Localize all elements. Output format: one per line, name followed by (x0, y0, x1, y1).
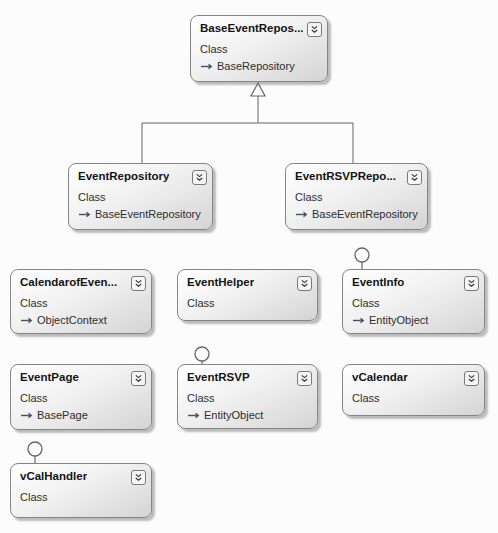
class-header: EventRepository (69, 164, 212, 188)
class-title: EventHelper (187, 276, 254, 288)
inherits-arrow-icon (295, 210, 308, 219)
base-type-row: EntityObject (343, 311, 484, 328)
base-type-name: ObjectContext (37, 313, 107, 328)
inherits-arrow-icon (187, 411, 200, 420)
inheritance-triangle-icon (251, 83, 265, 96)
base-type-name: BaseEventRepository (95, 207, 201, 222)
base-type-row: EntityObject (178, 406, 317, 423)
class-kind-label: Class (178, 389, 317, 406)
class-kind-label: Class (69, 188, 212, 205)
class-box-v-cal-handler[interactable]: vCalHandlerClass (10, 463, 152, 518)
class-kind-label: Class (11, 294, 151, 311)
chevron-double-down-icon[interactable] (192, 170, 207, 185)
base-type-name: BaseEventRepository (312, 207, 418, 222)
inherits-arrow-icon (20, 411, 33, 420)
class-kind-label: Class (11, 488, 151, 505)
chevron-double-down-icon[interactable] (407, 170, 422, 185)
class-box-v-calendar[interactable]: vCalendarClass (342, 364, 485, 416)
class-header: EventInfo (343, 270, 484, 294)
class-header: vCalHandler (11, 464, 151, 488)
chevron-double-down-icon[interactable] (464, 276, 479, 291)
base-type-name: BasePage (37, 408, 88, 423)
class-header: BaseEventRepos... (191, 16, 327, 40)
inherits-arrow-icon (20, 316, 33, 325)
class-title: vCalHandler (20, 470, 87, 482)
class-title: EventInfo (352, 276, 404, 288)
base-type-row: BaseEventRepository (69, 205, 212, 222)
class-box-event-helper[interactable]: EventHelperClass (177, 269, 318, 321)
chevron-double-down-icon[interactable] (131, 470, 146, 485)
base-type-row: BaseEventRepository (286, 205, 427, 222)
class-box-event-rsvp-repository[interactable]: EventRSVPRepo...ClassBaseEventRepository (285, 163, 428, 230)
class-header: CalendarofEven... (11, 270, 151, 294)
class-kind-label: Class (178, 294, 317, 311)
class-header: vCalendar (343, 365, 484, 389)
base-type-name: BaseRepository (217, 59, 295, 74)
inherits-arrow-icon (200, 62, 213, 71)
class-header: EventPage (11, 365, 151, 389)
class-kind-label: Class (286, 188, 427, 205)
class-title: EventRSVPRepo... (295, 170, 396, 182)
class-box-calendar-of-events[interactable]: CalendarofEven...ClassObjectContext (10, 269, 152, 334)
class-header: EventHelper (178, 270, 317, 294)
base-type-name: EntityObject (369, 313, 428, 328)
class-header: EventRSVP (178, 365, 317, 389)
base-type-row: ObjectContext (11, 311, 151, 328)
chevron-double-down-icon[interactable] (297, 276, 312, 291)
class-box-base-event-repository[interactable]: BaseEventRepos...ClassBaseRepository (190, 15, 328, 82)
inherits-arrow-icon (78, 210, 91, 219)
class-diagram-canvas: BaseEventRepos...ClassBaseRepositoryEven… (0, 0, 498, 533)
class-box-event-page[interactable]: EventPageClassBasePage (10, 364, 152, 430)
chevron-double-down-icon[interactable] (307, 22, 322, 37)
chevron-double-down-icon[interactable] (464, 371, 479, 386)
chevron-double-down-icon[interactable] (131, 371, 146, 386)
base-type-row: BaseRepository (191, 57, 327, 74)
class-title: CalendarofEven... (20, 276, 117, 288)
class-title: EventRepository (78, 170, 169, 182)
chevron-double-down-icon[interactable] (131, 276, 146, 291)
interface-lollipop-icon[interactable] (195, 347, 209, 364)
inherits-arrow-icon (352, 316, 365, 325)
class-box-event-rsvp[interactable]: EventRSVPClassEntityObject (177, 364, 318, 429)
base-type-row: BasePage (11, 406, 151, 423)
class-title: EventPage (20, 371, 79, 383)
generalization-connector[interactable] (142, 83, 353, 163)
class-title: BaseEventRepos... (200, 22, 303, 34)
class-box-event-info[interactable]: EventInfoClassEntityObject (342, 269, 485, 334)
interface-lollipop-icon[interactable] (28, 442, 42, 463)
class-kind-label: Class (343, 389, 484, 406)
class-header: EventRSVPRepo... (286, 164, 427, 188)
class-box-event-repository[interactable]: EventRepositoryClassBaseEventRepository (68, 163, 213, 230)
chevron-double-down-icon[interactable] (297, 371, 312, 386)
class-kind-label: Class (11, 389, 151, 406)
class-title: vCalendar (352, 371, 408, 383)
class-kind-label: Class (191, 40, 327, 57)
class-title: EventRSVP (187, 371, 250, 383)
class-kind-label: Class (343, 294, 484, 311)
interface-lollipop-icon[interactable] (355, 248, 369, 269)
base-type-name: EntityObject (204, 408, 263, 423)
